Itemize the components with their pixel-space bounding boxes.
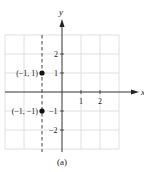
point-neg1-1 [39,70,44,75]
x-tick-label-1: 1 [79,97,83,106]
x-tick-label-2: 2 [98,97,102,106]
point-label-neg1-neg1: (−1, −1) [12,107,39,116]
y-axis-arrow-icon [60,19,65,27]
coordinate-plane-figure: x y 1 2 2 1 −1 −2 (−1, 1) (−1, −1) (a) [0,0,144,172]
y-axis-label: y [58,7,63,17]
y-tick-label-neg2: −2 [49,126,58,135]
y-tick-label-2: 2 [54,50,58,59]
y-tick-label-neg1: −1 [49,107,58,116]
point-label-neg1-1: (−1, 1) [16,69,38,78]
point-neg1-neg1 [39,108,44,113]
y-axis [60,19,65,152]
figure-caption: (a) [57,157,67,167]
x-axis-arrow-icon [131,90,139,95]
x-axis-label: x [140,87,144,97]
y-tick-label-1: 1 [54,69,58,78]
